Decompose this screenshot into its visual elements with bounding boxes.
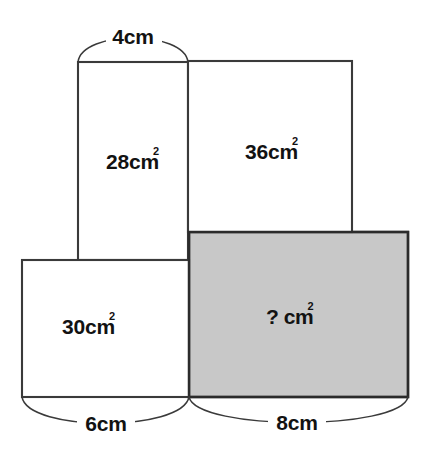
area-label-bottom-left-exponent: 2 bbox=[109, 310, 115, 322]
area-label-top-left: 28cm2 bbox=[106, 145, 159, 173]
area-label-top-left-exponent: 2 bbox=[153, 145, 159, 157]
area-label-shaded-exponent: 2 bbox=[308, 300, 314, 312]
area-label-top-left-value: 28 bbox=[106, 150, 129, 173]
area-label-shaded-unknown: ?cm2 bbox=[266, 300, 314, 328]
dimension-label-8cm: 8cm bbox=[276, 411, 317, 434]
composite-area-diagram: 28cm2 36cm2 30cm2 ?cm2 4cm 6cm 8cm bbox=[0, 0, 433, 461]
area-label-shaded-value: ? bbox=[266, 305, 279, 328]
dimension-label-4cm: 4cm bbox=[112, 25, 153, 48]
dimension-label-6cm: 6cm bbox=[85, 412, 126, 435]
area-label-bottom-left: 30cm2 bbox=[62, 310, 115, 338]
area-label-bottom-left-value: 30 bbox=[62, 315, 85, 338]
area-label-top-right-value: 36 bbox=[245, 140, 268, 163]
area-label-top-right: 36cm2 bbox=[245, 135, 298, 163]
geometry-figure-root: 28cm2 36cm2 30cm2 ?cm2 4cm 6cm 8cm bbox=[0, 0, 433, 461]
area-label-top-right-exponent: 2 bbox=[292, 135, 298, 147]
